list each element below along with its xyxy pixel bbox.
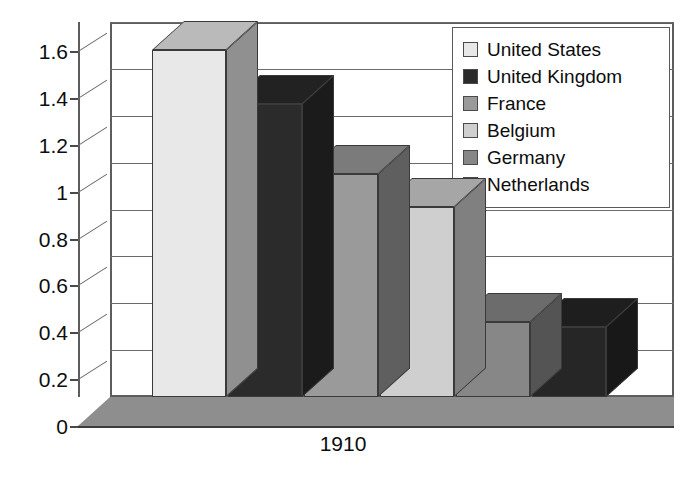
x-axis-category-labels: 1910 [78, 432, 674, 466]
y-axis-tick-label: 1.4 [39, 87, 68, 108]
chart-root: 00.20.40.60.811.21.41.6 1910 United Stat… [0, 0, 688, 486]
y-axis-tick-mark [70, 332, 78, 334]
bar-column [152, 21, 226, 397]
legend-label: Netherlands [487, 175, 589, 194]
legend-item[interactable]: France [463, 90, 659, 117]
bar-front-face [152, 50, 226, 397]
legend-label: France [487, 94, 546, 113]
legend-item[interactable]: United States [463, 36, 659, 63]
legend-item[interactable]: United Kingdom [463, 63, 659, 90]
x-axis-category-label: 1910 [78, 432, 608, 456]
y-axis-tick-mark [70, 192, 78, 194]
y-axis-tick-label: 0.6 [39, 275, 68, 296]
bar-side-face [378, 146, 410, 397]
y-axis-tick-label: 0 [56, 416, 68, 437]
y-axis-tick-label: 1.2 [39, 134, 68, 155]
y-axis-tick-mark [70, 145, 78, 147]
y-axis-tick-mark [70, 98, 78, 100]
legend-swatch-icon [463, 150, 478, 165]
legend-label: Belgium [487, 121, 556, 140]
legend-label: United States [487, 40, 601, 59]
y-axis-tick-mark [70, 426, 78, 428]
y-axis-tick-label: 0.4 [39, 322, 68, 343]
y-axis-tick-label: 1 [56, 181, 68, 202]
y-axis-tick-mark [70, 285, 78, 287]
floor-front-edge [78, 426, 674, 428]
y-axis-tick-mark [70, 51, 78, 53]
legend-item[interactable]: Netherlands [463, 171, 659, 198]
legend-swatch-icon [463, 42, 478, 57]
legend-label: United Kingdom [487, 67, 622, 86]
bar-side-face [454, 178, 486, 397]
y-axis-tick-mark [70, 379, 78, 381]
legend-swatch-icon [463, 123, 478, 138]
legend-swatch-icon [463, 69, 478, 84]
y-axis-tick-label: 1.6 [39, 41, 68, 62]
legend-swatch-icon [463, 96, 478, 111]
bar-side-face [226, 21, 258, 397]
y-axis-tick-mark [70, 239, 78, 241]
y-axis-tick-labels: 00.20.40.60.811.21.41.6 [0, 0, 68, 486]
y-axis-tick-label: 0.8 [39, 228, 68, 249]
legend-item[interactable]: Germany [463, 144, 659, 171]
legend-label: Germany [487, 148, 565, 167]
bar-side-face [302, 75, 334, 397]
legend-item[interactable]: Belgium [463, 117, 659, 144]
y-axis-tick-label: 0.2 [39, 369, 68, 390]
